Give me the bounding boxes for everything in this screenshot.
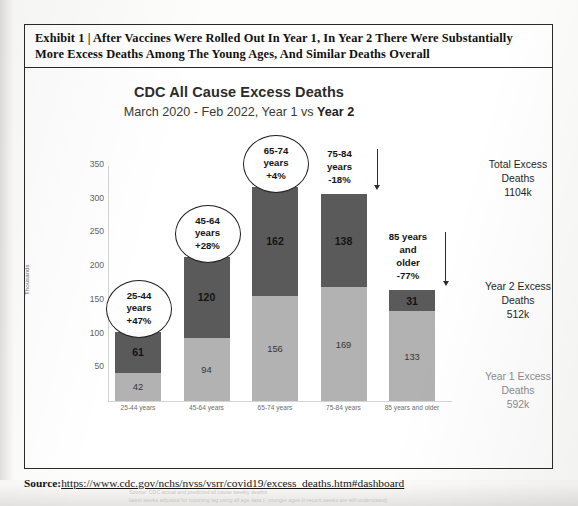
callout-age-text: years [327, 160, 352, 173]
chart-figure: CDC All Cause Excess Deaths March 2020 -… [24, 70, 553, 469]
arrow-shaft [445, 232, 446, 282]
side-note-label: Deaths [464, 172, 572, 186]
bar-segment-year2[interactable]: 120 [184, 257, 230, 338]
bar-segment-year1[interactable]: 42 [115, 373, 161, 401]
scanned-page: Exhibit 1 | After Vaccines Were Rolled O… [0, 0, 578, 506]
source-url[interactable]: https://www.cdc.gov/nchs/nvss/vsrr/covid… [61, 477, 404, 489]
bar-segment-year2[interactable]: 31 [389, 290, 435, 311]
bar-value-year1: 42 [133, 381, 143, 392]
side-note-value: 592k [464, 398, 572, 412]
chart-footnote-line1: Source: CDC actual and predicted all cau… [129, 488, 479, 496]
y-tick: 250 [64, 232, 104, 233]
bar-segment-year1[interactable]: 133 [389, 311, 435, 401]
y-tick: 150 [64, 300, 104, 301]
chart-footnote-line2: latest weeks adjusted for reporting lag … [129, 496, 479, 504]
side-note-value: 1104k [464, 186, 572, 200]
y-axis-line [108, 166, 109, 402]
side-note: Year 2 ExcessDeaths512k [464, 280, 572, 322]
bar-value-year2: 120 [198, 291, 216, 303]
y-tick-label: 150 [68, 294, 104, 304]
callout-age-text: 85 years [389, 230, 427, 243]
age-callout-plain: 85 yearsandolder-77% [377, 230, 439, 282]
callout-age-text: years [195, 227, 220, 240]
callout-age-text: 45-64 [195, 215, 220, 228]
callout-age-text: years [126, 302, 151, 315]
bar-segment-year2[interactable]: 61 [115, 332, 161, 373]
arrow-head [443, 281, 449, 286]
y-axis-label: Thousands [23, 264, 30, 295]
x-tick-label: 85 years and older [367, 404, 457, 411]
arrow-head [374, 185, 380, 190]
bar-value-year1: 169 [336, 339, 352, 350]
callout-age-text: 75-84 [327, 147, 352, 160]
callout-change-value: +47% [127, 315, 152, 328]
callout-age-text: 25-44 [127, 290, 152, 303]
age-callout-plain: 75-84years-18% [309, 147, 371, 186]
x-axis-line [108, 401, 452, 402]
side-note-label: Total Excess [464, 158, 572, 172]
down-arrow-icon [441, 232, 450, 288]
side-note-label: Deaths [464, 294, 572, 308]
bar-value-year2: 31 [406, 295, 418, 307]
bar-value-year1: 94 [201, 364, 211, 375]
callout-change-value: -18% [328, 173, 350, 186]
bar-column[interactable]: 138169 [321, 194, 367, 401]
bar-segment-year1[interactable]: 94 [184, 338, 230, 401]
exhibit-title: Exhibit 1 | After Vaccines Were Rolled O… [25, 25, 552, 68]
age-callout-ellipse: 25-44years+47% [106, 280, 172, 338]
age-callout-ellipse: 65-74years+4% [243, 135, 309, 193]
y-tick-label: 250 [68, 226, 104, 236]
callout-age-text: years [263, 157, 288, 170]
bar-segment-year2[interactable]: 138 [321, 194, 367, 287]
side-note: Total ExcessDeaths1104k [464, 158, 572, 200]
source-label: Source: [24, 477, 61, 489]
y-tick: 350 [64, 165, 104, 166]
y-tick-label: 50 [68, 361, 104, 371]
y-tick: 300 [64, 199, 104, 200]
bar-value-year1: 156 [267, 343, 283, 354]
callout-change-value: +4% [266, 170, 285, 183]
callout-age-text: and [399, 243, 416, 256]
bar-column[interactable]: 6142 [115, 332, 161, 401]
source-line: Source:https://www.cdc.gov/nchs/nvss/vsr… [24, 477, 564, 489]
bar-column[interactable]: 31133 [389, 290, 435, 401]
age-callout-ellipse: 45-64years+28% [175, 205, 241, 263]
y-tick-label: 100 [68, 328, 104, 338]
callout-change-value: -77% [397, 269, 419, 282]
y-tick: 200 [64, 266, 104, 267]
scan-edge-left [0, 0, 14, 506]
callout-change-value: +28% [195, 240, 220, 253]
callout-age-text: older [396, 256, 419, 269]
bar-column[interactable]: 162156 [252, 187, 298, 401]
bar-segment-year1[interactable]: 169 [321, 287, 367, 401]
side-note-label: Year 2 Excess [464, 280, 572, 294]
side-note-value: 512k [464, 308, 572, 322]
side-note-label: Deaths [464, 384, 572, 398]
y-tick: 50 [64, 367, 104, 368]
side-note-label: Year 1 Excess [464, 370, 572, 384]
bar-segment-year1[interactable]: 156 [252, 296, 298, 401]
bar-value-year1: 133 [404, 351, 420, 362]
y-tick: 100 [64, 334, 104, 335]
arrow-shaft [377, 149, 378, 186]
y-tick-label: 350 [68, 159, 104, 169]
down-arrow-icon [373, 149, 382, 192]
bar-column[interactable]: 12094 [184, 257, 230, 401]
callout-age-text: 65-74 [264, 145, 289, 158]
bar-value-year2: 162 [266, 235, 284, 247]
bar-value-year2: 61 [132, 346, 144, 358]
y-tick-label: 200 [68, 260, 104, 270]
bar-segment-year2[interactable]: 162 [252, 187, 298, 296]
y-tick-label: 300 [68, 193, 104, 203]
chart-footnote: Source: CDC actual and predicted all cau… [129, 488, 479, 505]
bar-value-year2: 138 [335, 235, 353, 247]
side-note: Year 1 ExcessDeaths592k [464, 370, 572, 412]
